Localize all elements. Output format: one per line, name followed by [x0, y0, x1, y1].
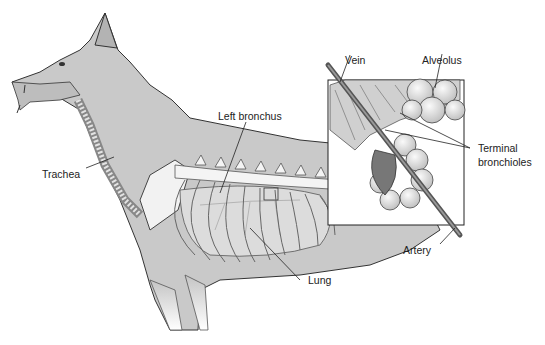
diagram: Trachea Left bronchus Lung Vein Alveolus…	[0, 0, 545, 345]
label-lung: Lung	[308, 274, 331, 286]
label-terminal-bronchioles-2: bronchioles	[478, 156, 532, 168]
dog-illustration	[0, 0, 545, 345]
label-terminal-bronchioles-1: Terminal	[478, 142, 518, 154]
label-artery: Artery	[403, 244, 431, 256]
alveoli-inset	[328, 65, 465, 235]
label-vein: Vein	[345, 54, 365, 66]
lung	[180, 186, 330, 256]
label-alveolus: Alveolus	[422, 54, 462, 66]
label-trachea: Trachea	[42, 168, 80, 180]
label-left-bronchus: Left bronchus	[218, 110, 282, 122]
